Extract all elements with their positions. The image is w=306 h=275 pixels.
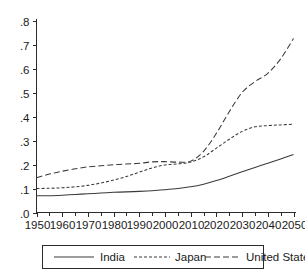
x-tick-label: 1950 (25, 219, 51, 231)
x-tick-label: 1970 (76, 219, 102, 231)
series-line-japan (37, 124, 294, 188)
chart-legend: IndiaJapanUnited States (43, 246, 306, 269)
x-tick-label: 2000 (153, 219, 179, 231)
chart-canvas: .0.1.2.3.4.5.6.7.8 195019601970198019902… (0, 0, 305, 275)
x-axis-tick-labels: 1950196019701980199020002010202020302040… (25, 219, 305, 231)
axes (37, 19, 297, 213)
legend-items: IndiaJapanUnited States (54, 251, 305, 263)
y-axis-tick-labels: .0.1.2.3.4.5.6.7.8 (20, 16, 30, 220)
y-tick-label: .8 (20, 16, 30, 28)
y-tick-label: .2 (20, 160, 30, 172)
y-tick-label: .4 (20, 112, 30, 124)
x-tick-label: 2010 (179, 219, 205, 231)
x-tick-label: 2030 (230, 219, 256, 231)
series-line-united-states (37, 39, 294, 178)
x-tick-label: 2050 (282, 219, 305, 231)
y-tick-label: .1 (20, 184, 30, 196)
series-line-india (37, 154, 294, 195)
data-series-group (37, 39, 294, 196)
legend-label-india: India (100, 251, 126, 263)
x-tick-label: 1990 (127, 219, 153, 231)
y-tick-label: .5 (20, 88, 30, 100)
legend-label-japan: Japan (175, 251, 206, 263)
x-tick-label: 1960 (50, 219, 76, 231)
y-tick-label: .6 (20, 64, 30, 76)
x-tick-label: 2020 (204, 219, 230, 231)
y-tick-label: .3 (20, 136, 30, 148)
legend-label-united-states: United States (246, 251, 305, 263)
y-axis-ticks (33, 22, 37, 214)
x-tick-label: 1980 (102, 219, 128, 231)
x-tick-label: 2040 (256, 219, 282, 231)
line-chart: .0.1.2.3.4.5.6.7.8 195019601970198019902… (0, 0, 305, 275)
y-tick-label: .7 (20, 40, 30, 52)
